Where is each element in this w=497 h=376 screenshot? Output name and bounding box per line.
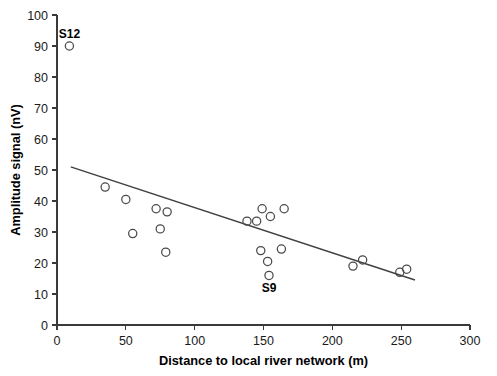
data-point-label: S12 [59, 27, 81, 41]
data-point-marker [129, 229, 137, 237]
x-axis-tick-label: 150 [253, 334, 274, 348]
data-point-marker [163, 208, 171, 216]
data-point-marker [258, 205, 266, 213]
y-axis-tick-label: 10 [34, 288, 48, 302]
x-axis-tick-label: 300 [460, 334, 481, 348]
data-point-marker [152, 205, 160, 213]
data-point-marker [65, 42, 73, 50]
data-point-marker [403, 265, 411, 273]
data-point-label: S9 [262, 281, 277, 295]
data-point-marker [162, 248, 170, 256]
x-axis-tick-label: 250 [391, 334, 412, 348]
scatter-plot: 0102030405060708090100050100150200250300… [0, 0, 497, 376]
y-axis-tick-label: 70 [34, 102, 48, 116]
y-axis-tick-label: 50 [34, 164, 48, 178]
x-axis-tick-label: 50 [119, 334, 133, 348]
data-point-marker [266, 212, 274, 220]
y-axis-tick-label: 30 [34, 226, 48, 240]
data-point-marker [349, 262, 357, 270]
y-axis-tick-label: 80 [34, 71, 48, 85]
data-point-marker [253, 217, 261, 225]
chart-figure: 0102030405060708090100050100150200250300… [0, 0, 497, 376]
y-axis-tick-label: 100 [27, 9, 48, 23]
data-point-marker [156, 225, 164, 233]
data-point-marker [264, 257, 272, 265]
data-point-marker [101, 183, 109, 191]
data-point-marker [257, 247, 265, 255]
data-point-marker [122, 195, 130, 203]
data-point-marker [280, 205, 288, 213]
y-axis-tick-label: 60 [34, 133, 48, 147]
regression-line [71, 167, 415, 280]
x-axis-tick-label: 100 [184, 334, 205, 348]
y-axis-tick-label: 0 [41, 319, 48, 333]
x-axis-title: Distance to local river network (m) [159, 353, 368, 368]
data-point-marker [243, 217, 251, 225]
y-axis-tick-label: 90 [34, 40, 48, 54]
data-point-marker [265, 271, 273, 279]
y-axis-tick-label: 20 [34, 257, 48, 271]
data-point-marker [277, 245, 285, 253]
x-axis-tick-label: 0 [54, 334, 61, 348]
x-axis-tick-label: 200 [322, 334, 343, 348]
y-axis-tick-label: 40 [34, 195, 48, 209]
y-axis-title: Amplitude signal (nV) [8, 104, 23, 236]
